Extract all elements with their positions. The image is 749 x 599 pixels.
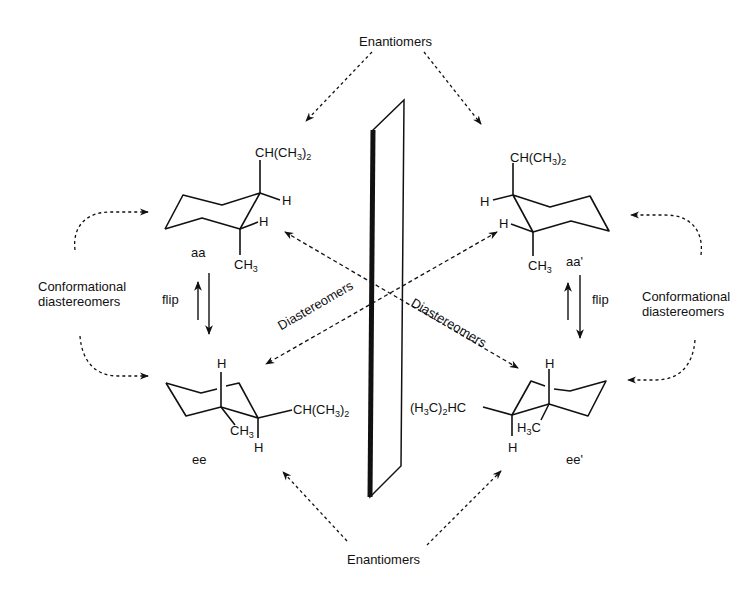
aa-prime-h2-label: H bbox=[499, 216, 508, 231]
conformational-diastereomers-left: Conformational diastereomers bbox=[38, 279, 126, 309]
conformational-diastereomers-right: Conformational diastereomers bbox=[642, 289, 730, 319]
aa-prime-isopropyl-label: CH(CH3)2 bbox=[510, 150, 566, 165]
conf-left-line1: Conformational bbox=[38, 279, 126, 294]
aa-prime-methyl-label: CH3 bbox=[528, 258, 552, 273]
ee-prime-name-label: ee' bbox=[566, 452, 583, 467]
enantiomers-label-top: Enantiomers bbox=[359, 34, 432, 49]
conf-right-line1: Conformational bbox=[642, 289, 730, 304]
molecule-aa-structure bbox=[165, 160, 280, 255]
ee-prime-methyl-label: H3C bbox=[517, 420, 541, 435]
enantiomers-arrows-bottom bbox=[283, 471, 501, 545]
aa-prime-h1-label: H bbox=[480, 194, 489, 209]
aa-prime-name-label: aa' bbox=[566, 254, 583, 269]
mirror-plane bbox=[370, 100, 404, 497]
molecule-ee-prime-structure bbox=[483, 369, 606, 436]
ee-name-label: ee bbox=[192, 452, 206, 467]
ee-prime-h-bottom-label: H bbox=[508, 440, 517, 455]
molecule-aa-prime-structure bbox=[493, 163, 609, 256]
ee-h-bottom-label: H bbox=[254, 440, 263, 455]
aa-h2-label: H bbox=[259, 214, 268, 229]
ee-isopropyl-label: CH(CH3)2 bbox=[293, 402, 349, 417]
ee-h-top-label: H bbox=[217, 356, 226, 371]
ee-methyl-label: CH3 bbox=[230, 423, 254, 438]
aa-isopropyl-label: CH(CH3)2 bbox=[255, 145, 311, 160]
aa-h1-label: H bbox=[282, 193, 291, 208]
ee-prime-h-top-label: H bbox=[545, 356, 554, 371]
conf-left-line2: diastereomers bbox=[38, 294, 126, 309]
aa-methyl-label: CH3 bbox=[234, 257, 258, 272]
aa-name-label: aa bbox=[191, 245, 205, 260]
molecule-ee-structure bbox=[166, 372, 292, 438]
flip-arrows-left bbox=[198, 273, 209, 334]
ee-prime-isopropyl-label: (H3C)2HC bbox=[410, 400, 466, 415]
flip-label-right: flip bbox=[592, 292, 609, 307]
flip-label-left: flip bbox=[162, 292, 179, 307]
conf-right-line2: diastereomers bbox=[642, 304, 730, 319]
flip-arrows-right bbox=[568, 275, 580, 338]
enantiomers-label-bottom: Enantiomers bbox=[347, 552, 420, 567]
